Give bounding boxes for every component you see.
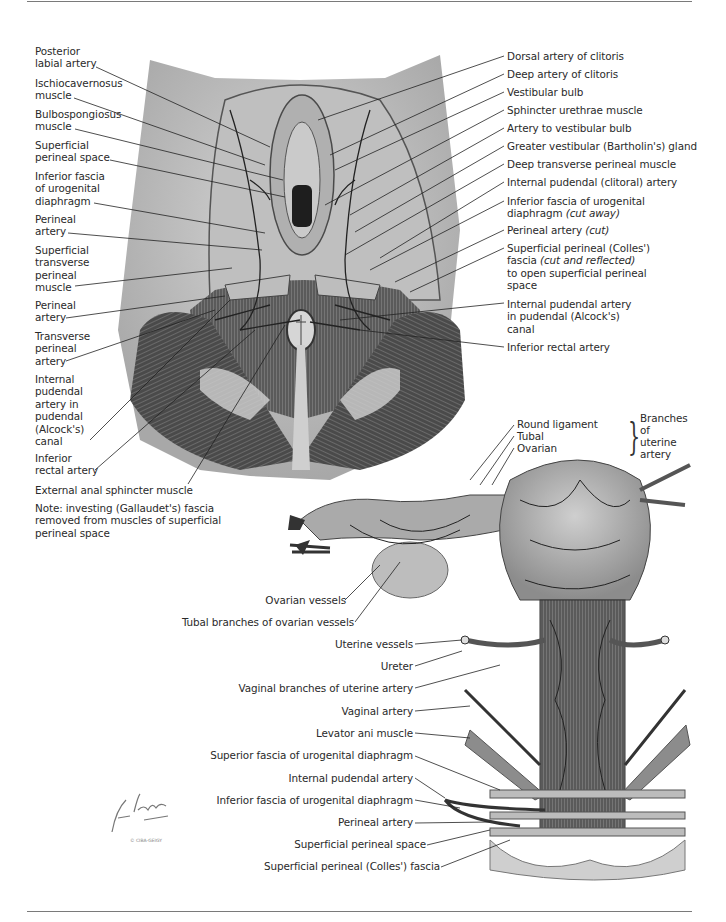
label-posterior-labial-artery: Posterior labial artery [35, 45, 97, 70]
label-deep-transverse-perineal-muscle: Deep transverse perineal muscle [507, 158, 676, 170]
label-external-anal-sphincter-muscle: External anal sphincter muscle [35, 484, 193, 496]
label-branches-of-uterine-artery: Branches of uterine artery [640, 412, 688, 460]
label-greater-vestibular-gland: Greater vestibular (Bartholin's) gland [507, 140, 697, 152]
label-superficial-transverse-perineal-muscle: Superficial transverse perineal muscle [35, 244, 89, 294]
label-inferior-fascia-urogenital-diaphragm-lower: Inferior fascia of urogenital diaphragm [217, 794, 413, 806]
label-deep-artery-of-clitoris: Deep artery of clitoris [507, 68, 618, 80]
label-sphincter-urethrae-muscle: Sphincter urethrae muscle [507, 104, 643, 116]
label-ischiocavernosus-muscle: Ischiocavernosus muscle [35, 77, 123, 102]
label-inferior-fascia-urogenital-diaphragm: Inferior fascia of urogenital diaphragm [35, 170, 105, 207]
label-internal-pudendal-artery-alcocks-canal: Internal pudendal artery in pudendal (Al… [35, 373, 84, 447]
label-round-ligament: Round ligament [517, 418, 598, 430]
label-vestibular-bulb: Vestibular bulb [507, 86, 583, 98]
netter-signature-icon [104, 790, 174, 840]
copyright-credit: © CIBA-GEIGY [130, 838, 162, 843]
label-artery-to-vestibular-bulb: Artery to vestibular bulb [507, 122, 631, 134]
label-tubal: Tubal [517, 430, 544, 442]
label-internal-pudendal-clitoral-artery: Internal pudendal (clitoral) artery [507, 176, 677, 188]
label-perineal-artery-lower-figure: Perineal artery [338, 816, 413, 828]
label-ureter: Ureter [381, 660, 413, 672]
label-ovarian: Ovarian [517, 442, 557, 454]
label-ovarian-vessels: Ovarian vessels [265, 594, 346, 606]
label-superficial-perineal-space-lower: Superficial perineal space [294, 838, 426, 850]
label-tubal-branches-ovarian-vessels: Tubal branches of ovarian vessels [182, 616, 354, 628]
label-perineal-artery-lower: Perineal artery [35, 299, 76, 324]
perineum-figure [118, 55, 465, 480]
label-inferior-rectal-artery-left: Inferior rectal artery [35, 452, 98, 477]
label-bulbospongiosus-muscle: Bulbospongiosus muscle [35, 108, 121, 133]
label-inferior-rectal-artery-right: Inferior rectal artery [507, 341, 610, 353]
label-transverse-perineal-artery: Transverse perineal artery [35, 330, 90, 367]
label-vaginal-artery: Vaginal artery [342, 705, 413, 717]
label-internal-pudendal-artery-lower: Internal pudendal artery [289, 772, 413, 784]
note-investing-fascia: Note: investing (Gallaudet's) fascia rem… [35, 502, 221, 539]
label-uterine-vessels: Uterine vessels [335, 638, 413, 650]
label-levator-ani-muscle: Levator ani muscle [316, 727, 413, 739]
label-vaginal-branches-uterine-artery: Vaginal branches of uterine artery [239, 682, 413, 694]
label-inferior-fascia-cut-away: Inferior fascia of urogenital diaphragm … [507, 195, 645, 220]
label-superficial-perineal-space: Superficial perineal space [35, 139, 110, 164]
label-perineal-artery-upper: Perineal artery [35, 213, 76, 238]
label-superficial-perineal-colles-fascia-lower: Superficial perineal (Colles') fascia [264, 860, 440, 872]
brace-icon: } [628, 417, 640, 455]
label-superficial-perineal-colles-fascia: Superficial perineal (Colles') fascia (c… [507, 242, 650, 292]
label-perineal-artery-cut: Perineal artery (cut) [507, 224, 609, 236]
label-superior-fascia-urogenital-diaphragm: Superior fascia of urogenital diaphragm [210, 749, 413, 761]
label-internal-pudendal-artery-right: Internal pudendal artery in pudendal (Al… [507, 298, 631, 335]
label-dorsal-artery-of-clitoris: Dorsal artery of clitoris [507, 50, 624, 62]
